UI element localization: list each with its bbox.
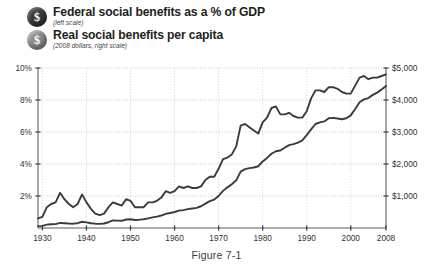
y-axis-label-right: $5,000 bbox=[392, 63, 418, 73]
dollar-badge-gray-icon: $ bbox=[27, 30, 47, 50]
plot-area: 10%$5,0008%$4,0006%$3,0004%$2,0002%$1,00… bbox=[0, 58, 433, 243]
x-axis-label: 1980 bbox=[253, 233, 272, 243]
x-axis-label: 1940 bbox=[77, 233, 96, 243]
legend-item-per-capita-text: Real social benefits per capita (2008 do… bbox=[53, 29, 223, 50]
y-axis-label-left: 2% bbox=[20, 191, 33, 201]
axis-lines bbox=[38, 68, 386, 228]
dollar-badge-dark-icon: $ bbox=[27, 7, 47, 27]
series-line-per-capita bbox=[38, 86, 386, 226]
chart-legend: $ Federal social benefits as a % of GDP … bbox=[27, 6, 357, 52]
legend-item-gdp-percent: $ Federal social benefits as a % of GDP … bbox=[27, 6, 357, 27]
y-axis-label-right: $2,000 bbox=[392, 159, 418, 169]
vertical-gridlines bbox=[42, 68, 386, 228]
data-series bbox=[38, 74, 386, 226]
y-axis-label-right: $3,000 bbox=[392, 127, 418, 137]
dollar-sign-glyph: $ bbox=[27, 11, 47, 23]
figure-caption: Figure 7-1 bbox=[0, 249, 433, 261]
x-axis-label: 1990 bbox=[297, 233, 316, 243]
legend-title-gdp-percent: Federal social benefits as a % of GDP bbox=[53, 6, 265, 19]
y-axis-label-right: $1,000 bbox=[392, 191, 418, 201]
y-axis-label-left: 6% bbox=[20, 127, 33, 137]
y-axis-label-left: 8% bbox=[20, 95, 33, 105]
x-axis-label: 2000 bbox=[342, 233, 361, 243]
legend-title-per-capita: Real social benefits per capita bbox=[53, 29, 223, 42]
x-axis-label: 1960 bbox=[165, 233, 184, 243]
legend-subtitle-gdp-percent: (left scale) bbox=[53, 20, 265, 27]
y-axis-label-left: 4% bbox=[20, 159, 33, 169]
legend-item-per-capita: $ Real social benefits per capita (2008 … bbox=[27, 29, 357, 50]
x-axis-label: 1970 bbox=[209, 233, 228, 243]
y-axis-label-right: $4,000 bbox=[392, 95, 418, 105]
series-line-gdp-percent bbox=[38, 74, 386, 218]
figure-container: $ Federal social benefits as a % of GDP … bbox=[0, 0, 433, 275]
legend-subtitle-per-capita: (2008 dollars, right scale) bbox=[53, 43, 223, 50]
x-axis-label: 2008 bbox=[377, 233, 396, 243]
axis-tick-labels: 10%$5,0008%$4,0006%$3,0004%$2,0002%$1,00… bbox=[15, 63, 417, 243]
chart-svg: 10%$5,0008%$4,0006%$3,0004%$2,0002%$1,00… bbox=[0, 58, 433, 243]
dollar-sign-glyph: $ bbox=[27, 34, 47, 46]
legend-item-gdp-percent-text: Federal social benefits as a % of GDP (l… bbox=[53, 6, 265, 27]
x-axis-label: 1950 bbox=[121, 233, 140, 243]
y-axis-label-left: 10% bbox=[15, 63, 32, 73]
x-axis-label: 1930 bbox=[33, 233, 52, 243]
